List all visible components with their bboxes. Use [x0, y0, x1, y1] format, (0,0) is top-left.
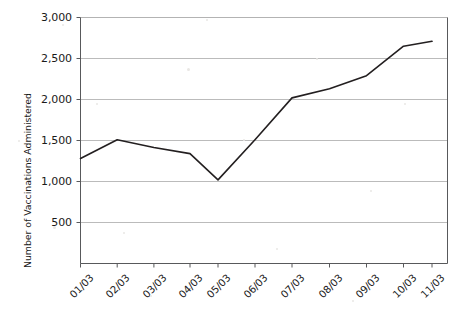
gridlines [81, 18, 448, 223]
plot-area [0, 0, 468, 318]
line-chart: Number of Vaccinations Administered 5001… [0, 0, 468, 318]
data-series-line [81, 41, 433, 180]
